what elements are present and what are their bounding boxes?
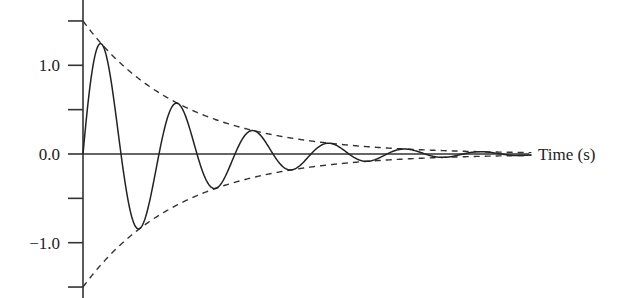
damped-oscillation-line	[83, 44, 531, 229]
y-tick-labels: 1.00.0−1.0	[29, 56, 60, 252]
damped-oscillation-chart: 1.00.0−1.0 Time (s)	[0, 0, 618, 298]
y-tick-label: 1.0	[39, 56, 60, 75]
y-tick-label: 0.0	[39, 145, 60, 164]
lower-envelope-line	[83, 155, 531, 287]
x-axis-label: Time (s)	[538, 145, 595, 164]
upper-envelope-line	[83, 21, 531, 153]
y-ticks	[68, 21, 83, 287]
y-tick-label: −1.0	[29, 234, 60, 253]
